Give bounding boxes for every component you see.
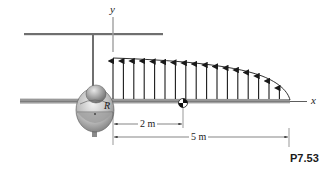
fuselage (76, 85, 114, 137)
wing (20, 99, 290, 104)
figure-p7-53: y x R 2 m 5 m P7.53 (0, 0, 336, 170)
distributed-load (113, 58, 290, 100)
dimension-5m-label: 5 m (189, 132, 208, 142)
load-arrows (113, 61, 279, 99)
dimension-2m-label: 2 m (138, 119, 157, 129)
problem-number: P7.53 (290, 153, 319, 164)
center-of-mass-marker (179, 99, 188, 108)
x-axis-label: x (311, 95, 316, 106)
y-axis-label: y (110, 4, 115, 15)
diagram-canvas (0, 0, 336, 170)
vertical-stabilizer (92, 34, 94, 86)
point-r-label: R (104, 101, 110, 111)
